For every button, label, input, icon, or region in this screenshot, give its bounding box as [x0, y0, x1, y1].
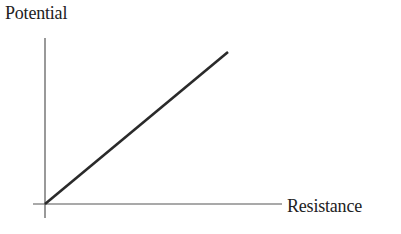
plot-area — [0, 0, 401, 234]
data-line — [45, 52, 228, 204]
